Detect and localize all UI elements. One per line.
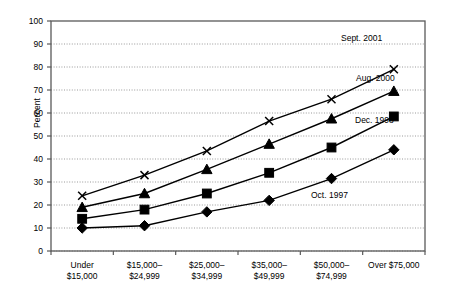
- x-tick-label: Under $15,000: [47, 260, 117, 281]
- data-point-marker-diamond: [264, 195, 274, 205]
- y-tick-label: 10: [17, 224, 43, 233]
- data-point-marker-diamond: [139, 221, 149, 231]
- series-sept-2001: [78, 65, 398, 200]
- y-tick-label: 40: [17, 155, 43, 164]
- data-point-marker-diamond: [77, 223, 87, 233]
- series-line: [82, 150, 394, 228]
- chart-container: Percent 0102030405060708090100 Under $15…: [0, 0, 449, 294]
- data-point-marker-square: [202, 189, 211, 198]
- data-point-marker-triangle: [264, 139, 274, 148]
- series-oct-1997: [77, 145, 399, 234]
- series-label-sept-2001: Sept. 2001: [341, 33, 382, 43]
- x-tick-label: $35,000– $49,999: [234, 260, 304, 281]
- series-aug-2000: [77, 86, 399, 212]
- data-point-marker-triangle: [139, 188, 149, 197]
- data-point-marker-square: [327, 143, 336, 152]
- x-tick-label: $15,000– $24,999: [109, 260, 179, 281]
- data-point-marker-x: [141, 171, 149, 179]
- data-point-marker-diamond: [202, 207, 212, 217]
- chart-plot-svg: [0, 0, 449, 294]
- x-tick-label: $50,000– $74,999: [296, 260, 366, 281]
- y-tick-label: 20: [17, 201, 43, 210]
- data-point-marker-square: [78, 214, 87, 223]
- y-tick-label: 70: [17, 86, 43, 95]
- data-point-marker-square: [140, 205, 149, 214]
- y-tick-label: 50: [17, 132, 43, 141]
- data-point-marker-x: [203, 147, 211, 155]
- data-point-marker-triangle: [389, 86, 399, 95]
- data-point-marker-triangle: [326, 114, 336, 123]
- y-tick-label: 100: [17, 17, 43, 26]
- y-tick-label: 60: [17, 109, 43, 118]
- y-tick-label: 80: [17, 63, 43, 72]
- series-line: [82, 116, 394, 218]
- y-tick-label: 90: [17, 40, 43, 49]
- data-point-marker-x: [328, 95, 336, 103]
- series-label-dec-1998: Dec. 1998: [355, 115, 394, 125]
- data-point-marker-x: [78, 192, 86, 200]
- y-tick-label: 30: [17, 178, 43, 187]
- series-line: [82, 69, 394, 196]
- series-label-oct-1997: Oct. 1997: [311, 190, 348, 200]
- data-point-marker-x: [265, 117, 273, 125]
- y-tick-label: 0: [17, 247, 43, 256]
- x-tick-label: Over $75,000: [359, 260, 429, 271]
- data-point-marker-triangle: [202, 164, 212, 173]
- data-point-marker-diamond: [389, 145, 399, 155]
- x-tick-label: $25,000– $34,999: [172, 260, 242, 281]
- series-label-aug-2000: Aug. 2000: [356, 73, 395, 83]
- data-point-marker-square: [265, 168, 274, 177]
